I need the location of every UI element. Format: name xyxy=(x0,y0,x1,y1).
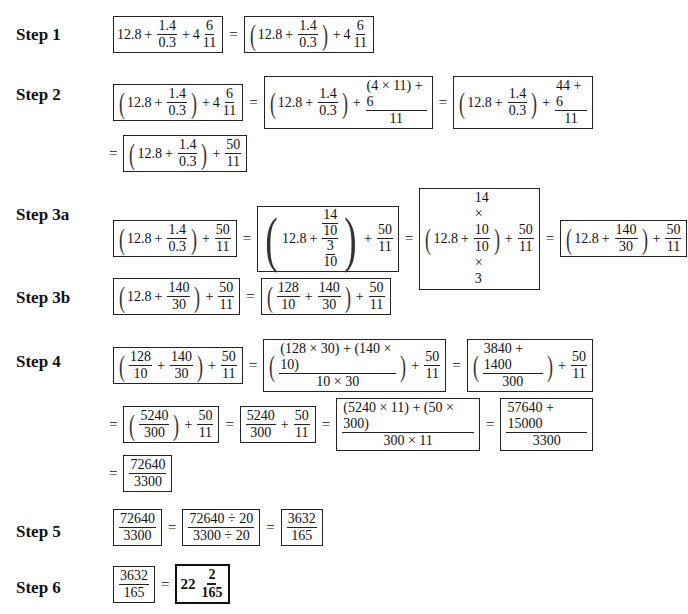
equals: = xyxy=(109,465,117,482)
equals: = xyxy=(225,416,233,433)
step-3a-equation: (12.8+ 1.40.3) + 5011 = (12.8+ 1410 310 … xyxy=(112,188,688,290)
fraction: 611 xyxy=(202,18,217,51)
expression-box: 726403300 xyxy=(113,509,162,546)
plus: + xyxy=(653,231,661,247)
numerator: 1.4 xyxy=(298,18,318,35)
expression-box: (12.8+ 1.40.3) + 5011 xyxy=(123,135,247,172)
paren: ) xyxy=(547,351,553,381)
paren: ) xyxy=(197,351,203,381)
numerator: 1.4 xyxy=(318,86,338,103)
numerator: 50 xyxy=(518,222,534,239)
fraction: 611 xyxy=(353,18,368,51)
fraction: 5011 xyxy=(571,349,587,382)
plus: + xyxy=(155,289,163,305)
plus: + xyxy=(305,95,313,111)
expression-box: 72640 ÷ 203300 ÷ 20 xyxy=(182,509,260,546)
equals: = xyxy=(246,288,254,305)
numerator: 6 xyxy=(225,86,234,103)
step-4-continuation: = ( 5240300) + 5011 = 5240300 + 5011 = (… xyxy=(104,398,594,451)
fraction: 14030 xyxy=(615,222,638,255)
step-3a-label: Step 3a xyxy=(16,205,69,225)
numerator: 50 xyxy=(294,408,310,425)
denominator: 11 xyxy=(198,425,213,441)
step-2-equation: (12.8+ 1.40.3) +4 611 = (12.8+ 1.40.3) +… xyxy=(112,76,594,129)
term: 12.8 xyxy=(282,231,307,247)
paren: ( xyxy=(269,351,275,381)
step-1-equation: 12.8+ 1.40.3 +4 611 = ( 12.8+ 1.40.3 ) +… xyxy=(112,16,375,53)
denominator: 11 xyxy=(369,297,384,313)
paren: ( xyxy=(119,351,125,381)
paren: ) xyxy=(191,224,197,254)
numerator: 140 xyxy=(615,222,638,239)
denominator: 300 xyxy=(249,425,272,441)
plus: + xyxy=(542,95,550,111)
equals: = xyxy=(109,416,117,433)
numerator: (5240 × 11) + (50 × 300) xyxy=(342,400,474,433)
expression-box: ( 5240300) + 5011 xyxy=(123,406,219,443)
paren: ) xyxy=(173,410,179,440)
plus: + xyxy=(461,231,469,247)
expression-box: ( 12810 + 14030) + 5011 xyxy=(261,278,391,315)
numerator: 1.4 xyxy=(508,86,528,103)
fraction: 5240300 xyxy=(139,408,169,441)
plus: + xyxy=(495,95,503,111)
plus: + xyxy=(353,95,361,111)
plus: + xyxy=(208,358,216,374)
paren: ) xyxy=(494,224,500,254)
fraction: 2165 xyxy=(200,567,223,601)
denominator: 11 xyxy=(424,366,439,382)
plus: + xyxy=(364,231,372,247)
denominator: 165 xyxy=(123,585,146,601)
paren: ) xyxy=(342,88,348,118)
expression-box: 3632165 xyxy=(113,566,155,603)
fraction: 14030 xyxy=(318,280,341,313)
fraction: 5011 xyxy=(424,349,440,382)
plus: + xyxy=(558,358,566,374)
denominator: 10 xyxy=(280,297,296,313)
fraction: 1.40.3 xyxy=(178,137,198,170)
numerator: (4 × 11) + 6 xyxy=(366,78,427,111)
equals: = xyxy=(546,230,554,247)
numerator: 50 xyxy=(221,349,237,366)
denominator: 30 xyxy=(618,239,634,255)
paren: ) xyxy=(194,282,200,312)
expression-box: (12.8+ 1.40.3) + (4 × 11) + 611 xyxy=(264,76,433,129)
plus: + xyxy=(145,27,153,43)
plus: + xyxy=(202,95,210,111)
equals: = xyxy=(243,230,251,247)
expression-box: 12.8+ 1.40.3 +4 611 xyxy=(113,16,223,53)
numerator: 140 xyxy=(167,280,190,297)
fraction: 14 × 1010 × 3 xyxy=(474,190,490,288)
numerator: 1.4 xyxy=(157,18,177,35)
paren: ) xyxy=(400,351,406,381)
plus: + xyxy=(155,95,163,111)
denominator: 11 xyxy=(388,111,403,127)
plus: + xyxy=(202,231,210,247)
fraction: 14030 xyxy=(170,349,193,382)
plus: + xyxy=(309,231,317,247)
denominator: 165 xyxy=(200,585,223,601)
numerator: 57640 + 15000 xyxy=(506,400,587,433)
plus: + xyxy=(305,289,313,305)
denominator: 0.3 xyxy=(508,103,528,119)
plus: + xyxy=(356,289,364,305)
numerator: 50 xyxy=(215,222,231,239)
numerator: 72640 xyxy=(129,457,166,474)
paren: ( xyxy=(473,351,479,381)
step-4-label: Step 4 xyxy=(16,352,61,372)
fraction: 12810 xyxy=(129,349,152,382)
paren: ( xyxy=(459,88,465,118)
numerator: 1.4 xyxy=(167,222,187,239)
fraction: 1.40.3 xyxy=(167,222,187,255)
denominator: 30 xyxy=(321,297,337,313)
plus: + xyxy=(333,27,341,43)
whole: 4 xyxy=(213,95,220,111)
plus: + xyxy=(205,289,213,305)
fraction: 5011 xyxy=(218,280,234,313)
paren: ( xyxy=(270,88,276,118)
step-4-equation: ( 12810 + 14030) + 5011 = ( (128 × 30) +… xyxy=(112,339,594,392)
fraction: 3840 + 1400300 xyxy=(483,341,543,390)
denominator: 0.3 xyxy=(298,35,318,51)
final-answer-box: 22 2165 xyxy=(175,564,230,604)
whole: 4 xyxy=(344,27,351,43)
